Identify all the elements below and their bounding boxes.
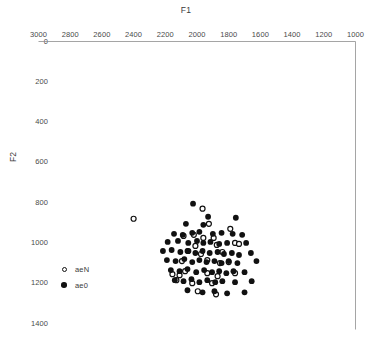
data-point-ae0: [236, 252, 242, 258]
data-point-ae0: [233, 215, 239, 221]
data-point-ae0: [169, 247, 175, 253]
data-point-aeN: [228, 226, 233, 231]
data-point-ae0: [242, 269, 248, 275]
data-point-aeN: [201, 235, 206, 240]
data-point-ae0: [200, 222, 206, 228]
data-point-ae0: [160, 248, 166, 254]
data-point-ae0: [189, 259, 195, 265]
data-point-aeN: [237, 241, 242, 246]
data-point-ae0: [229, 250, 235, 256]
filled-circle-icon: [58, 282, 70, 288]
data-point-ae0: [219, 230, 225, 236]
data-point-ae0: [193, 269, 199, 275]
data-point-ae0: [231, 268, 237, 274]
data-point-ae0: [242, 289, 248, 295]
data-point-aeN: [195, 289, 200, 294]
data-point-ae0: [216, 268, 222, 274]
data-point-ae0: [216, 241, 222, 247]
open-circle-icon: [58, 267, 70, 272]
data-point-ae0: [196, 257, 202, 263]
data-point-ae0: [239, 232, 245, 238]
data-point-ae0: [212, 288, 218, 294]
plot-area: [0, 0, 372, 339]
data-point-ae0: [181, 278, 187, 284]
data-point-ae0: [248, 250, 254, 256]
data-point-ae0: [212, 279, 218, 285]
data-point-ae0: [183, 221, 189, 227]
data-point-ae0: [219, 278, 225, 284]
data-point-ae0: [249, 278, 255, 284]
data-point-ae0: [189, 230, 195, 236]
data-point-ae0: [196, 229, 202, 235]
data-point-ae0: [212, 258, 218, 264]
data-point-ae0: [200, 248, 206, 254]
data-point-ae0: [224, 290, 230, 296]
data-point-ae0: [189, 276, 195, 282]
legend-label-aeN: aeN: [75, 265, 89, 274]
data-point-ae0: [164, 257, 170, 263]
data-point-ae0: [172, 277, 178, 283]
data-point-ae0: [204, 259, 210, 265]
legend-label-ae0: ae0: [75, 281, 88, 290]
data-point-aeN: [200, 206, 205, 211]
data-point-ae0: [210, 231, 216, 237]
data-point-ae0: [200, 289, 206, 295]
data-point-ae0: [180, 232, 186, 238]
data-point-ae0: [193, 250, 199, 256]
data-point-ae0: [208, 239, 214, 245]
data-point-ae0: [177, 249, 183, 255]
data-point-ae0: [168, 267, 174, 273]
data-point-ae0: [219, 260, 225, 266]
data-point-ae0: [190, 201, 196, 207]
data-point-ae0: [224, 240, 230, 246]
data-point-aeN: [206, 221, 211, 226]
formant-scatter-figure: F1 3000280026002400220020001800160014001…: [0, 0, 372, 339]
legend: aeN ae0: [58, 261, 89, 293]
data-point-ae0: [201, 267, 207, 273]
data-point-ae0: [173, 258, 179, 264]
data-point-ae0: [204, 277, 210, 283]
data-point-ae0: [171, 231, 177, 237]
data-point-ae0: [185, 248, 191, 254]
data-point-ae0: [181, 256, 187, 262]
data-point-ae0: [185, 266, 191, 272]
data-point-ae0: [185, 287, 191, 293]
data-point-ae0: [235, 260, 241, 266]
data-point-ae0: [226, 258, 232, 264]
legend-item-ae0[interactable]: ae0: [58, 277, 89, 293]
legend-item-aeN[interactable]: aeN: [58, 261, 89, 277]
data-point-ae0: [205, 214, 211, 220]
data-point-ae0: [200, 240, 206, 246]
data-point-ae0: [215, 249, 221, 255]
data-point-ae0: [194, 238, 200, 244]
data-point-ae0: [207, 250, 213, 256]
data-point-ae0: [223, 270, 229, 276]
data-point-ae0: [221, 251, 227, 257]
data-point-ae0: [196, 279, 202, 285]
data-point-aeN: [193, 243, 198, 248]
data-point-ae0: [175, 238, 181, 244]
data-point-ae0: [209, 269, 215, 275]
data-point-ae0: [232, 279, 238, 285]
data-point-ae0: [243, 240, 249, 246]
data-point-aeN: [215, 274, 220, 279]
data-point-ae0: [165, 239, 171, 245]
data-point-ae0: [185, 240, 191, 246]
data-point-ae0: [177, 268, 183, 274]
data-point-aeN: [131, 216, 136, 221]
data-point-ae0: [230, 231, 236, 237]
data-point-ae0: [254, 258, 260, 264]
